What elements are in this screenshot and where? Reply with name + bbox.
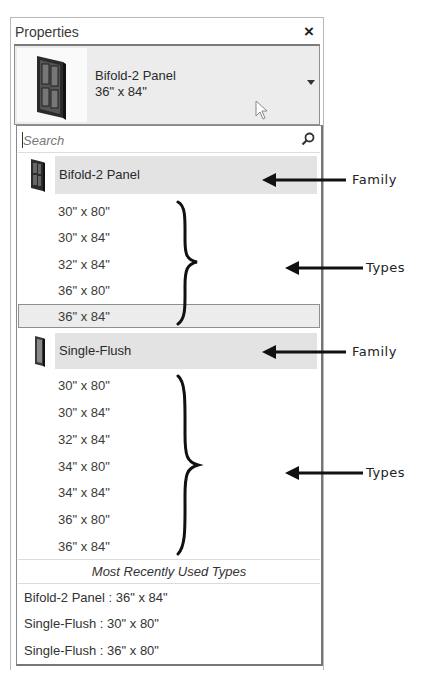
arrow-left-icon [283,463,365,483]
divider [18,559,320,560]
family-name: Single-Flush [59,343,131,358]
type-dropdown-list: Search Bifold-2 Panel 30" x 80" 30" x 84… [16,125,323,666]
type-item[interactable]: 34" x 84" [58,482,110,504]
selected-family: Bifold-2 Panel [95,68,176,83]
type-item[interactable]: 32" x 84" [58,254,110,276]
family-name: Bifold-2 Panel [59,167,140,182]
type-item[interactable]: 36" x 80" [58,509,110,531]
panel-title: Properties [15,24,79,40]
type-item[interactable]: 32" x 84" [58,429,110,451]
search-icon[interactable] [300,131,316,147]
search-input[interactable]: Search [18,127,320,153]
annotation-family-label: Family [352,172,397,187]
type-item[interactable]: 30" x 80" [58,201,110,223]
chevron-down-icon[interactable] [307,80,315,85]
single-flush-door-icon [33,335,47,367]
annotation-types-label: Types [366,465,405,480]
search-placeholder: Search [23,133,64,148]
bifold-door-icon [29,158,47,192]
type-selector[interactable]: Bifold-2 Panel 36" x 84" [14,44,320,125]
arrow-left-icon [283,258,365,278]
arrow-left-icon [260,342,350,362]
mru-item[interactable]: Bifold-2 Panel : 36" x 84" [24,590,168,605]
brace-annotation [172,200,206,326]
type-item-selected[interactable]: 36" x 84" [58,306,110,328]
type-item[interactable]: 36" x 80" [58,280,110,302]
divider [18,583,320,584]
mru-heading: Most Recently Used Types [17,564,321,579]
arrow-left-icon [260,170,350,190]
type-item[interactable]: 34" x 80" [58,456,110,478]
type-item[interactable]: 36" x 84" [58,536,110,558]
annotation-family-label: Family [352,344,397,359]
selected-type: 36" x 84" [95,84,147,99]
annotation-types-label: Types [366,260,405,275]
type-item[interactable]: 30" x 80" [58,375,110,397]
mru-item[interactable]: Single-Flush : 36" x 80" [24,643,159,658]
type-item[interactable]: 30" x 84" [58,402,110,424]
mru-item[interactable]: Single-Flush : 30" x 80" [24,616,159,631]
mouse-cursor-icon [255,100,269,120]
type-item[interactable]: 30" x 84" [58,227,110,249]
close-icon[interactable]: × [304,22,314,42]
type-thumbnail [17,48,87,122]
bifold-door-icon [31,54,71,120]
brace-annotation [172,374,206,556]
